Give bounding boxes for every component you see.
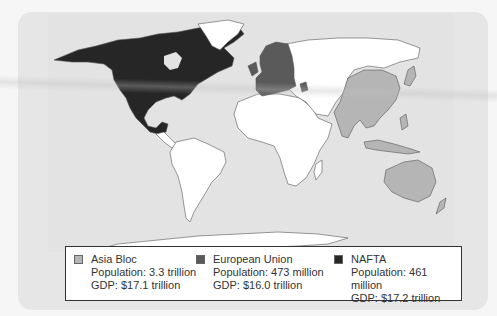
legend-population: Population: 473 million — [196, 266, 324, 279]
region-australia — [384, 160, 436, 202]
nafta-swatch-icon — [334, 255, 343, 264]
legend-gdp: GDP: $16.0 trillion — [196, 279, 324, 292]
world-map-svg — [48, 14, 453, 252]
european-union-swatch-icon — [196, 255, 205, 264]
legend-item-asia-bloc: Asia Bloc Population: 3.3 trillion GDP: … — [74, 253, 196, 292]
legend-item-european-union: European Union Population: 473 million G… — [196, 253, 324, 292]
legend-name: Asia Bloc — [91, 253, 137, 266]
legend-name: European Union — [213, 253, 293, 266]
legend-gdp: GDP: $17.2 trillion — [334, 292, 461, 305]
region-european-union — [256, 42, 296, 96]
region-south-america — [170, 138, 226, 222]
world-map — [48, 14, 453, 252]
map-legend: Asia Bloc Population: 3.3 trillion GDP: … — [65, 246, 462, 301]
legend-name: NAFTA — [351, 253, 386, 266]
legend-item-nafta: NAFTA Population: 461 million GDP: $17.2… — [334, 253, 461, 305]
legend-gdp: GDP: $17.1 trillion — [74, 279, 196, 292]
legend-population: Population: 461 million — [334, 266, 461, 292]
legend-population: Population: 3.3 trillion — [74, 266, 196, 279]
asia-bloc-swatch-icon — [74, 255, 83, 264]
